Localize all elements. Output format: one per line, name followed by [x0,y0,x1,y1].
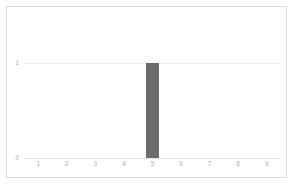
x-tick-label-5: 5 [151,161,155,168]
y-gridline-0: 0 [24,158,281,159]
x-tick-label-8: 8 [236,161,240,168]
x-tick-label-4: 4 [122,161,126,168]
x-tick-label-7: 7 [208,161,212,168]
x-tick-label-6: 6 [179,161,183,168]
y-tick-label-0: 0 [15,155,19,162]
chart-container: 10 123456789 [0,0,293,185]
y-tick-label-1: 1 [15,60,19,67]
plot-area: 10 [24,14,281,174]
x-tick-label-3: 3 [94,161,98,168]
x-tick-label-9: 9 [265,161,269,168]
x-tick-label-1: 1 [36,161,40,168]
x-axis-tick-labels: 123456789 [24,161,281,173]
bar-5[interactable] [146,63,159,158]
x-tick-label-2: 2 [65,161,69,168]
